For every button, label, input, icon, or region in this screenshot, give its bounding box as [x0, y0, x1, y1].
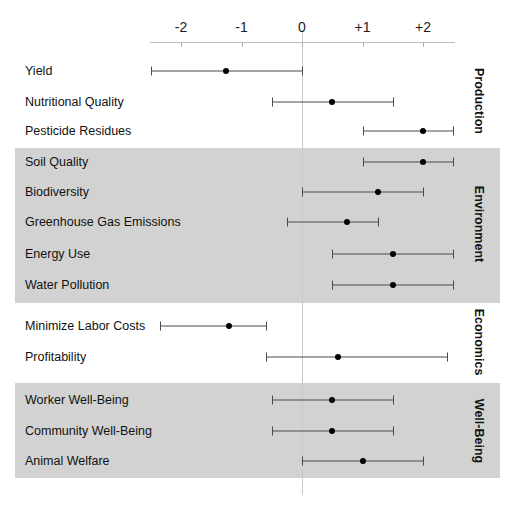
- estimate-marker: [390, 251, 396, 257]
- forest-row: Community Well-Being: [0, 416, 518, 446]
- row-label: Water Pollution: [25, 279, 109, 292]
- interval-cap-low: [332, 281, 333, 290]
- interval-cap-high: [453, 127, 454, 136]
- interval-cap-high: [378, 218, 379, 227]
- row-label: Worker Well-Being: [25, 394, 129, 407]
- interval-cap-high: [447, 353, 448, 362]
- interval-cap-low: [151, 67, 152, 76]
- estimate-marker: [420, 159, 426, 165]
- row-label: Profitability: [25, 351, 86, 364]
- estimate-marker: [344, 219, 350, 225]
- estimate-marker: [329, 428, 335, 434]
- group-label-well-being: Well-Being: [472, 398, 486, 462]
- row-label: Minimize Labor Costs: [25, 320, 145, 333]
- interval-cap-low: [302, 457, 303, 466]
- row-label: Greenhouse Gas Emissions: [25, 216, 181, 229]
- estimate-marker: [420, 128, 426, 134]
- estimate-marker: [390, 282, 396, 288]
- forest-row: Greenhouse Gas Emissions: [0, 207, 518, 237]
- interval-cap-high: [302, 67, 303, 76]
- interval-cap-high: [453, 250, 454, 259]
- forest-row: Biodiversity: [0, 177, 518, 207]
- x-axis-tick-label: -1: [235, 19, 247, 35]
- interval-cap-high: [266, 322, 267, 331]
- x-axis-tick-label: -2: [175, 19, 187, 35]
- estimate-marker: [223, 68, 229, 74]
- row-label: Biodiversity: [25, 186, 89, 199]
- row-label: Yield: [25, 65, 52, 78]
- estimate-marker: [226, 323, 232, 329]
- row-label: Soil Quality: [25, 156, 88, 169]
- estimate-marker: [329, 397, 335, 403]
- confidence-interval-line: [160, 326, 266, 327]
- forest-row: Water Pollution: [0, 270, 518, 300]
- confidence-interval-line: [287, 222, 378, 223]
- x-axis-tick-label: +2: [415, 19, 431, 35]
- row-label: Nutritional Quality: [25, 96, 124, 109]
- interval-cap-low: [266, 353, 267, 362]
- estimate-marker: [360, 458, 366, 464]
- interval-cap-low: [302, 188, 303, 197]
- confidence-interval-line: [302, 192, 423, 193]
- interval-cap-high: [393, 427, 394, 436]
- group-label-economics: Economics: [472, 308, 486, 375]
- forest-row: Animal Welfare: [0, 446, 518, 476]
- x-axis-tick-label: +1: [355, 19, 371, 35]
- forest-row: Soil Quality: [0, 147, 518, 177]
- interval-cap-low: [287, 218, 288, 227]
- interval-cap-low: [272, 98, 273, 107]
- interval-cap-low: [363, 127, 364, 136]
- forest-plot-figure: -2-10+1+2 YieldNutritional QualityPestic…: [0, 0, 518, 507]
- interval-cap-low: [160, 322, 161, 331]
- row-label: Animal Welfare: [25, 455, 110, 468]
- forest-row: Pesticide Residues: [0, 116, 518, 146]
- row-label: Community Well-Being: [25, 425, 152, 438]
- row-label: Energy Use: [25, 248, 90, 261]
- interval-cap-high: [453, 281, 454, 290]
- interval-cap-low: [272, 396, 273, 405]
- interval-cap-low: [332, 250, 333, 259]
- forest-row: Minimize Labor Costs: [0, 311, 518, 341]
- forest-row: Yield: [0, 56, 518, 86]
- estimate-marker: [335, 354, 341, 360]
- forest-row: Worker Well-Being: [0, 385, 518, 415]
- interval-cap-low: [272, 427, 273, 436]
- row-label: Pesticide Residues: [25, 125, 131, 138]
- x-axis-tick-mark: [181, 42, 182, 47]
- estimate-marker: [329, 99, 335, 105]
- x-axis-tick-mark: [423, 42, 424, 47]
- x-axis-tick-label: 0: [298, 19, 306, 35]
- interval-cap-low: [363, 158, 364, 167]
- estimate-marker: [375, 189, 381, 195]
- forest-row: Profitability: [0, 342, 518, 372]
- interval-cap-high: [423, 188, 424, 197]
- interval-cap-high: [453, 158, 454, 167]
- interval-cap-high: [393, 98, 394, 107]
- forest-row: Nutritional Quality: [0, 87, 518, 117]
- confidence-interval-line: [266, 357, 448, 358]
- forest-row: Energy Use: [0, 239, 518, 269]
- confidence-interval-line: [363, 131, 454, 132]
- x-axis-tick-mark: [363, 42, 364, 47]
- interval-cap-high: [423, 457, 424, 466]
- x-axis-tick-mark: [242, 42, 243, 47]
- interval-cap-high: [393, 396, 394, 405]
- confidence-interval-line: [363, 162, 454, 163]
- x-axis-tick-mark: [302, 42, 303, 47]
- group-label-production: Production: [472, 68, 486, 134]
- group-label-environment: Environment: [472, 185, 486, 261]
